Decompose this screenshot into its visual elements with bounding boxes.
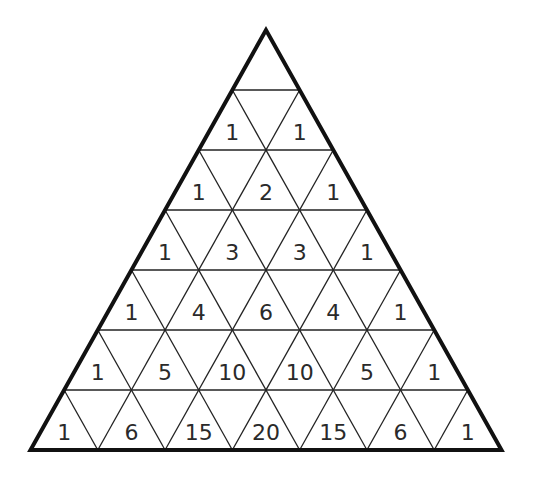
cell-number: 6	[394, 420, 408, 445]
cell-number: 4	[192, 300, 206, 325]
cell-number: 15	[185, 420, 213, 445]
cell-number: 6	[259, 300, 273, 325]
cell-number: 1	[427, 360, 441, 385]
cell-number: 10	[218, 360, 246, 385]
cell-number: 1	[326, 180, 340, 205]
cell-number: 15	[319, 420, 347, 445]
cell-number: 1	[57, 420, 71, 445]
cell-number: 1	[158, 240, 172, 265]
triangle-grid-lines	[64, 90, 468, 450]
cell-number: 1	[124, 300, 138, 325]
cell-number: 5	[158, 360, 172, 385]
cell-number: 1	[192, 180, 206, 205]
cell-number: 10	[286, 360, 314, 385]
outer-triangle	[31, 30, 502, 450]
cell-number: 1	[360, 240, 374, 265]
cell-number: 2	[259, 180, 273, 205]
grid-line-diagonal	[165, 150, 333, 450]
cell-number: 3	[225, 240, 239, 265]
grid-line-diagonal	[199, 150, 367, 450]
cell-number: 1	[461, 420, 475, 445]
cell-number: 5	[360, 360, 374, 385]
cell-number: 4	[326, 300, 340, 325]
cell-number: 20	[252, 420, 280, 445]
cell-number: 1	[293, 120, 307, 145]
grid-line-diagonal	[131, 270, 232, 450]
cell-number: 1	[91, 360, 105, 385]
cell-number: 3	[293, 240, 307, 265]
pascal-triangle-diagram: 11121133114641151010511615201561	[0, 0, 533, 480]
grid-line-diagonal	[300, 270, 401, 450]
cell-number: 1	[394, 300, 408, 325]
cell-number: 6	[124, 420, 138, 445]
triangle-numbers: 11121133114641151010511615201561	[57, 120, 475, 445]
cell-number: 1	[225, 120, 239, 145]
